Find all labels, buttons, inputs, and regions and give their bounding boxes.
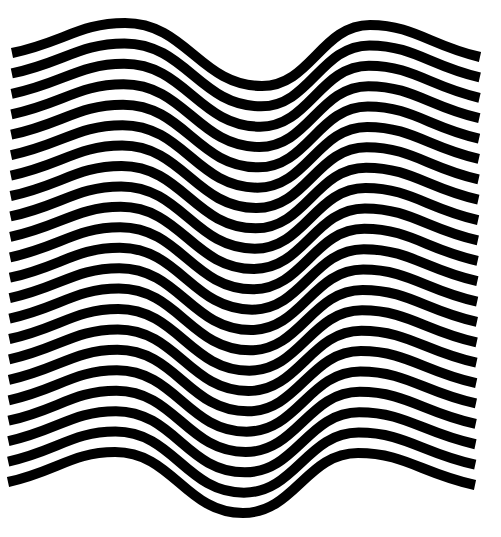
stripe-group: [8, 23, 480, 513]
wavy-stripe: [8, 452, 475, 513]
wavy-stripes-artwork: [0, 0, 501, 537]
